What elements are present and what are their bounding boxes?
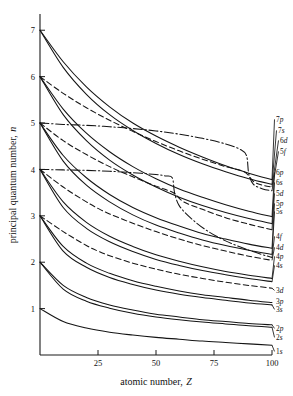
curve-6s: [40, 77, 272, 224]
orbital-label-6p: 6p: [276, 168, 284, 177]
orbital-label-4p: 4p: [276, 252, 284, 261]
curve-group: [40, 30, 272, 345]
orbital-label-7p: 7p: [276, 115, 284, 124]
chart-figure: 255075100 1234567 7p7s6d5f6p6s5d5p5s4f4d…: [0, 0, 293, 396]
orbital-label-3d: 3d: [276, 286, 284, 295]
curve-3s: [40, 216, 272, 305]
orbital-label-5d: 5d: [276, 189, 284, 198]
x-tick-label: 100: [266, 358, 279, 368]
orbital-label-group: 7p7s6d5f6p6s5d5p5s4f4d4p4s3d3p3s2p2s1s: [276, 115, 288, 356]
orbital-label-6d: 6d: [280, 136, 288, 145]
orbital-energy-chart: 255075100 1234567 7p7s6d5f6p6s5d5p5s4f4d…: [0, 0, 293, 396]
orbital-label-4s: 4s: [276, 261, 283, 270]
y-axis-title: principal quantum number, n: [7, 127, 18, 244]
y-tick-label: 6: [31, 72, 35, 82]
orbital-label-3s: 3s: [276, 305, 283, 314]
y-tick-label: 4: [31, 165, 36, 175]
curve-3d: [40, 216, 272, 288]
orbital-label-5f: 5f: [280, 147, 287, 156]
y-tick-label: 3: [31, 211, 35, 221]
curve-4d: [40, 169, 272, 260]
leader-3d: [272, 288, 275, 290]
y-tick-label: 7: [31, 25, 35, 35]
orbital-label-7s: 7s: [278, 126, 285, 135]
x-axis-title: atomic number, Z: [120, 376, 192, 387]
curve-5s: [40, 123, 272, 254]
curve-2p: [40, 262, 272, 325]
x-tick-label: 75: [210, 358, 219, 368]
curve-7s: [40, 30, 272, 184]
orbital-label-4f: 4f: [276, 232, 283, 241]
orbital-label-6s: 6s: [276, 178, 283, 187]
curve-5f: [40, 123, 272, 191]
x-tick-label: 25: [94, 358, 103, 368]
x-tick-label: 50: [152, 358, 161, 368]
curve-7p: [40, 30, 272, 179]
y-tick-label: 2: [31, 257, 35, 267]
leader-3s: [272, 305, 275, 310]
orbital-label-2p: 2p: [276, 324, 284, 333]
orbital-label-2s: 2s: [276, 333, 283, 342]
x-tick-group: 255075100: [94, 350, 279, 368]
curve-6p: [40, 77, 272, 217]
y-tick-label: 1: [31, 304, 35, 314]
curve-2s: [40, 262, 272, 327]
orbital-label-1s: 1s: [276, 347, 283, 356]
leader-2s: [272, 327, 275, 337]
axes-group: [40, 14, 272, 355]
y-tick-label: 5: [31, 118, 35, 128]
orbital-label-4d: 4d: [276, 243, 284, 252]
orbital-label-5s: 5s: [276, 207, 283, 216]
